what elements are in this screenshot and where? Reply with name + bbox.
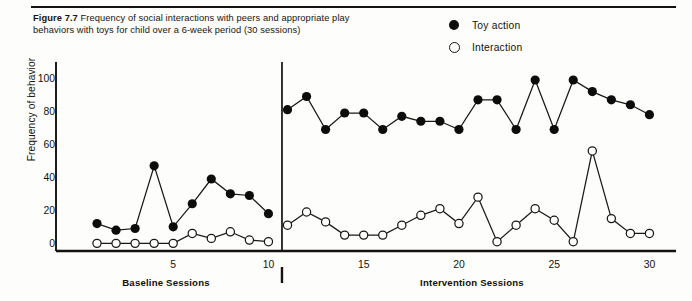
series-toy-action bbox=[92, 75, 654, 234]
y-tick-label: 80 bbox=[25, 106, 55, 117]
data-point-interaction bbox=[302, 208, 310, 216]
data-point-interaction bbox=[341, 231, 349, 239]
data-point-toy-action bbox=[111, 226, 120, 235]
x-tick-label: 15 bbox=[349, 259, 379, 270]
data-point-toy-action bbox=[359, 108, 368, 117]
data-point-interaction bbox=[264, 238, 272, 246]
data-point-interaction bbox=[245, 236, 253, 244]
data-point-interaction bbox=[569, 238, 577, 246]
chart-svg bbox=[0, 0, 692, 301]
data-point-interaction bbox=[512, 221, 520, 229]
x-tick-label: 5 bbox=[158, 259, 188, 270]
y-tick-label: 20 bbox=[25, 205, 55, 216]
data-point-toy-action bbox=[245, 191, 254, 200]
x-tick-label: 20 bbox=[444, 259, 474, 270]
data-point-toy-action bbox=[454, 125, 463, 134]
data-point-toy-action bbox=[397, 112, 406, 121]
data-point-toy-action bbox=[435, 117, 444, 126]
data-point-interaction bbox=[626, 229, 634, 237]
data-point-interaction bbox=[588, 147, 596, 155]
data-point-toy-action bbox=[321, 125, 330, 134]
y-tick-label: 40 bbox=[25, 172, 55, 183]
series-line bbox=[97, 166, 269, 230]
data-point-interaction bbox=[226, 228, 234, 236]
data-point-toy-action bbox=[531, 75, 540, 84]
data-point-interaction bbox=[283, 221, 291, 229]
y-tick-label: 0 bbox=[25, 238, 55, 249]
series-line bbox=[288, 80, 650, 130]
data-point-toy-action bbox=[511, 125, 520, 134]
data-point-interaction bbox=[531, 205, 539, 213]
data-point-toy-action bbox=[92, 219, 101, 228]
series-interaction bbox=[93, 147, 654, 248]
data-point-toy-action bbox=[150, 161, 159, 170]
data-point-toy-action bbox=[416, 117, 425, 126]
data-point-toy-action bbox=[264, 209, 273, 218]
data-point-interaction bbox=[169, 239, 177, 247]
data-point-toy-action bbox=[226, 189, 235, 198]
data-point-toy-action bbox=[626, 100, 635, 109]
data-point-interaction bbox=[493, 238, 501, 246]
data-point-toy-action bbox=[550, 125, 559, 134]
data-point-toy-action bbox=[169, 222, 178, 231]
data-point-toy-action bbox=[492, 95, 501, 104]
data-point-interaction bbox=[550, 216, 558, 224]
data-point-toy-action bbox=[473, 95, 482, 104]
data-point-interaction bbox=[607, 215, 615, 223]
data-point-toy-action bbox=[588, 87, 597, 96]
data-point-interaction bbox=[398, 221, 406, 229]
data-point-interaction bbox=[150, 239, 158, 247]
data-point-toy-action bbox=[302, 92, 311, 101]
phase-label-baseline: Baseline Sessions bbox=[71, 277, 261, 288]
data-point-toy-action bbox=[645, 110, 654, 119]
data-point-toy-action bbox=[378, 125, 387, 134]
data-point-toy-action bbox=[569, 75, 578, 84]
data-point-toy-action bbox=[340, 108, 349, 117]
x-tick-label: 25 bbox=[539, 259, 569, 270]
phase-label-intervention: Intervention Sessions bbox=[322, 277, 622, 288]
y-tick-label: 100 bbox=[25, 73, 55, 84]
data-point-interaction bbox=[455, 219, 463, 227]
data-point-interaction bbox=[436, 205, 444, 213]
data-point-toy-action bbox=[131, 224, 140, 233]
data-point-interaction bbox=[131, 239, 139, 247]
data-point-toy-action bbox=[607, 95, 616, 104]
data-point-interaction bbox=[645, 229, 653, 237]
data-point-interaction bbox=[322, 218, 330, 226]
y-tick-label: 60 bbox=[25, 139, 55, 150]
series-line bbox=[97, 232, 269, 244]
chart-plot-area: Frequency of behavior 020406080100 51015… bbox=[0, 0, 692, 301]
data-point-toy-action bbox=[283, 105, 292, 114]
data-point-interaction bbox=[379, 231, 387, 239]
figure-root: Figure 7.7 Frequency of social interacti… bbox=[0, 0, 692, 301]
data-point-interaction bbox=[417, 211, 425, 219]
data-point-interaction bbox=[93, 239, 101, 247]
data-point-interaction bbox=[112, 239, 120, 247]
data-point-interaction bbox=[188, 229, 196, 237]
data-point-toy-action bbox=[188, 199, 197, 208]
data-point-toy-action bbox=[207, 174, 216, 183]
x-tick-label: 30 bbox=[634, 259, 664, 270]
x-tick-label: 10 bbox=[253, 259, 283, 270]
data-point-interaction bbox=[474, 193, 482, 201]
data-point-interaction bbox=[207, 234, 215, 242]
series-line bbox=[288, 151, 650, 242]
data-point-interaction bbox=[360, 231, 368, 239]
